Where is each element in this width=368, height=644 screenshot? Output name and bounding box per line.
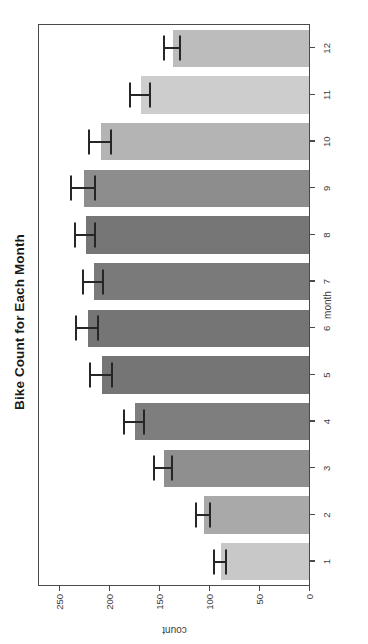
bar-month-7	[94, 263, 309, 300]
bar-group-month-12: 12	[39, 30, 309, 67]
x-tick-7	[309, 281, 315, 282]
y-tick-label-100: 100	[204, 594, 215, 610]
x-tick-6	[309, 327, 315, 328]
bar-month-6	[88, 310, 309, 347]
bar-month-11	[141, 76, 309, 113]
error-bar-cap-upper-month-11	[129, 83, 131, 108]
error-bar-cap-lower-month-12	[179, 36, 181, 61]
x-tick-4	[309, 421, 315, 422]
y-tick-200	[109, 585, 110, 591]
bar-group-month-1: 1	[39, 543, 309, 580]
x-tick-11	[309, 94, 315, 95]
error-bar-cap-upper-month-3	[153, 456, 155, 481]
error-bar-cap-lower-month-1	[225, 549, 227, 574]
error-bar-cap-lower-month-8	[94, 223, 96, 248]
error-bar-cap-lower-month-7	[102, 269, 104, 294]
error-bar-cap-upper-month-4	[123, 409, 125, 434]
error-bar-cap-upper-month-12	[163, 36, 165, 61]
bar-month-10	[101, 123, 309, 160]
bar-month-3	[164, 450, 309, 487]
y-tick-250	[59, 585, 60, 591]
bar-group-month-2: 2	[39, 496, 309, 533]
chart-figure: Bike Count for Each Month count 12345678…	[0, 0, 368, 644]
error-bar-cap-upper-month-8	[74, 223, 76, 248]
bar-group-month-8: 8	[39, 216, 309, 253]
error-bar-line-month-9	[72, 187, 96, 189]
bar-group-month-9: 9	[39, 170, 309, 207]
error-bar-cap-upper-month-2	[195, 503, 197, 528]
x-axis-label: month	[322, 24, 333, 586]
bar-month-5	[102, 356, 309, 393]
rotated-figure-container: Bike Count for Each Month count 12345678…	[0, 0, 368, 644]
bar-month-8	[86, 216, 309, 253]
x-tick-9	[309, 187, 315, 188]
error-bar-cap-lower-month-4	[143, 409, 145, 434]
y-tick-label-200: 200	[104, 594, 115, 610]
error-bar-cap-lower-month-10	[110, 129, 112, 154]
error-bar-cap-lower-month-2	[209, 503, 211, 528]
plot-area: 123456789101112 050100150200250	[38, 24, 310, 586]
bar-group-month-3: 3	[39, 450, 309, 487]
bar-month-12	[173, 30, 309, 67]
error-bar-cap-lower-month-9	[94, 176, 96, 201]
error-bar-cap-lower-month-6	[97, 316, 99, 341]
bar-month-2	[204, 496, 309, 533]
y-axis-label-text: count	[162, 626, 186, 637]
bar-group-month-6: 6	[39, 310, 309, 347]
bar-group-month-10: 10	[39, 123, 309, 160]
x-tick-5	[309, 374, 315, 375]
y-tick-0	[309, 585, 310, 591]
x-tick-1	[309, 561, 315, 562]
bar-month-1	[221, 543, 309, 580]
bar-group-month-5: 5	[39, 356, 309, 393]
error-bar-cap-upper-month-10	[88, 129, 90, 154]
bar-group-month-7: 7	[39, 263, 309, 300]
error-bar-cap-lower-month-3	[171, 456, 173, 481]
error-bar-cap-upper-month-9	[70, 176, 72, 201]
bars-layer: 123456789101112	[39, 25, 309, 585]
y-tick-label-150: 150	[154, 594, 165, 610]
error-bar-cap-upper-month-5	[89, 363, 91, 388]
y-tick-100	[209, 585, 210, 591]
bar-month-9	[84, 170, 309, 207]
error-bar-cap-upper-month-6	[75, 316, 77, 341]
bar-month-4	[135, 403, 309, 440]
y-axis-label: count	[38, 624, 310, 638]
chart-title: Bike Count for Each Month	[12, 0, 27, 644]
y-tick-label-50: 50	[254, 594, 265, 605]
error-bar-cap-upper-month-7	[82, 269, 84, 294]
x-tick-3	[309, 467, 315, 468]
x-tick-10	[309, 141, 315, 142]
x-tick-2	[309, 514, 315, 515]
bar-group-month-4: 4	[39, 403, 309, 440]
bar-group-month-11: 11	[39, 76, 309, 113]
y-tick-label-0: 0	[304, 594, 315, 599]
x-tick-8	[309, 234, 315, 235]
error-bar-cap-lower-month-5	[111, 363, 113, 388]
y-tick-50	[259, 585, 260, 591]
x-tick-12	[309, 47, 315, 48]
error-bar-cap-lower-month-11	[149, 83, 151, 108]
y-tick-150	[159, 585, 160, 591]
y-tick-label-250: 250	[54, 594, 65, 610]
error-bar-cap-upper-month-1	[213, 549, 215, 574]
